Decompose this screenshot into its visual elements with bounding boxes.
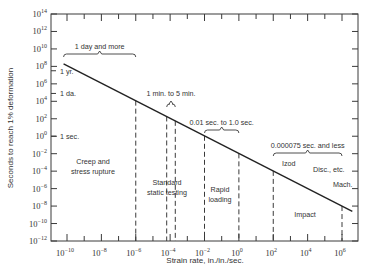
- y-tick-label: 10−8: [32, 200, 47, 211]
- bracket-label: 1 min. to 5 min.: [146, 89, 195, 98]
- y-tick-label: 108: [36, 60, 48, 71]
- y-tick-label: 104: [36, 95, 48, 106]
- sublabel-izod: Izod: [282, 159, 296, 168]
- x-tick-label: 106: [334, 247, 346, 258]
- bracket-label: 1 day and more: [75, 42, 125, 51]
- y-axis-title: Seconds to reach 1% deformation: [6, 68, 15, 189]
- y-tick-label: 10−10: [29, 218, 47, 229]
- bracket: [273, 150, 342, 156]
- data-line: [64, 64, 353, 212]
- y-tick-label: 10−6: [32, 183, 47, 194]
- y-reference-labels: 1 yr.1 da.1 sec.: [51, 67, 79, 141]
- y-tick-label: 1010: [33, 43, 48, 54]
- region-rapid-line1: Rapid: [211, 185, 230, 194]
- x-tick-label: 102: [266, 247, 278, 258]
- time-reference-label: 1 sec.: [60, 132, 79, 141]
- time-reference-label: 1 yr.: [60, 67, 74, 76]
- time-reference-label: 1 da.: [60, 89, 76, 98]
- y-tick-label: 10−2: [32, 148, 47, 159]
- region-creep-line1: Creep and: [76, 157, 110, 166]
- bracket: [64, 51, 136, 57]
- sublabel-disc: Disc., etc.: [313, 165, 345, 174]
- sublabel-mach: Mach.: [333, 180, 353, 189]
- x-tick-label: 10−8: [92, 247, 107, 258]
- bracket: [167, 101, 176, 107]
- y-tick-label: 1012: [33, 25, 48, 36]
- x-tick-label: 10−10: [56, 247, 74, 258]
- strain-rate-chart: 10141012101010810610410210010−210−410−61…: [0, 0, 369, 274]
- y-tick-label: 10−4: [32, 165, 47, 176]
- region-static-line1: Standard: [152, 178, 181, 187]
- region-impact: Impact: [294, 210, 316, 219]
- y-tick-label: 102: [36, 113, 48, 124]
- y-tick-label: 100: [36, 130, 48, 141]
- y-tick-label: 1014: [33, 8, 48, 19]
- y-tick-label: 106: [36, 78, 48, 89]
- x-axis-title: Strain rate, in./in./sec.: [166, 256, 243, 265]
- x-tick-label: 10−6: [126, 247, 141, 258]
- bracket-label: 0.01 sec. to 1.0 sec.: [190, 118, 254, 127]
- bracket-label: 0.000075 sec. and less: [271, 141, 345, 150]
- region-rapid-line2: loading: [208, 195, 231, 204]
- x-tick-label: 104: [300, 247, 312, 258]
- bracket: [205, 127, 239, 133]
- region-static-line2: static testing: [147, 188, 187, 197]
- y-tick-label: 10−12: [29, 235, 47, 246]
- region-creep-line2: stress rupture: [71, 167, 115, 176]
